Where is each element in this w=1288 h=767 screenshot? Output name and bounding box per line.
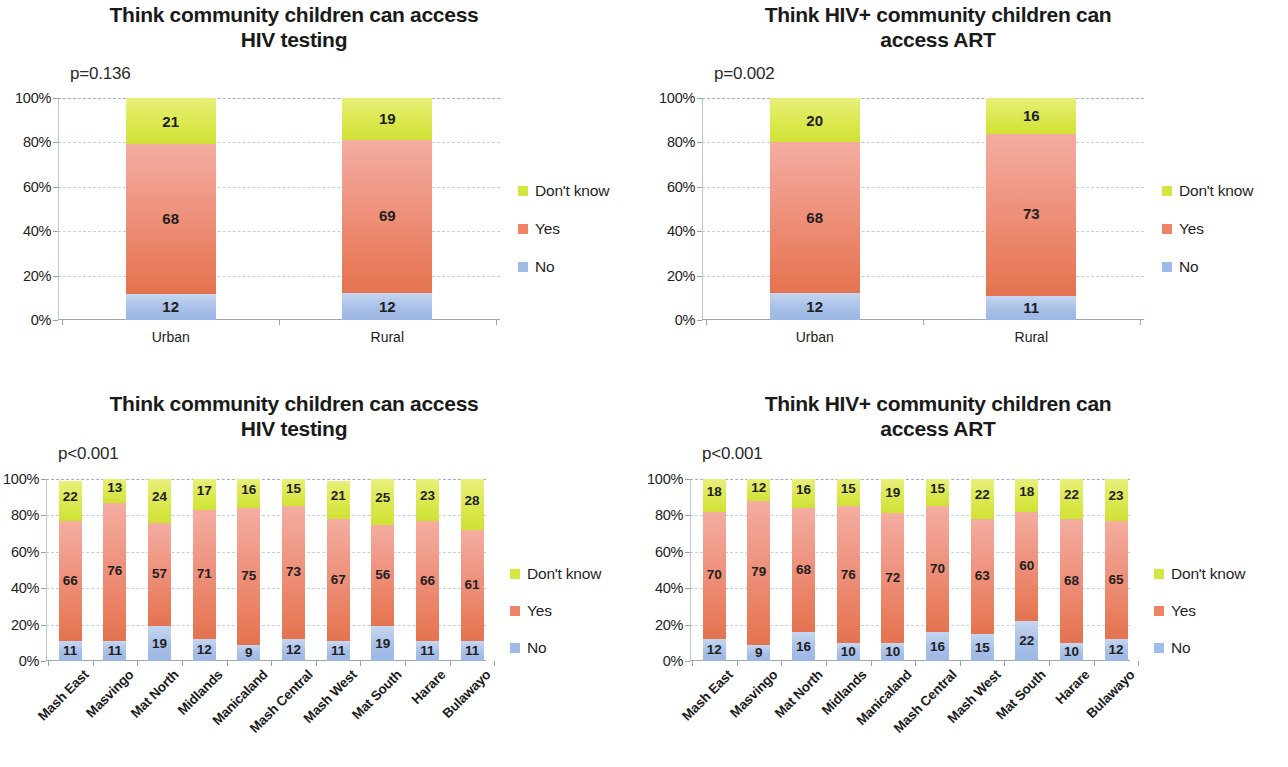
legend-item-dont-know[interactable]: Don't know xyxy=(1154,565,1245,583)
legend-label: No xyxy=(527,639,546,657)
bar-segment: 12 xyxy=(703,639,726,661)
bar-data-label: 68 xyxy=(1060,573,1083,588)
bar-data-label: 66 xyxy=(59,573,82,588)
x-axis-tick-mark xyxy=(1049,661,1050,666)
stacked-bar: 97912 xyxy=(747,479,770,661)
legend-item-yes[interactable]: Yes xyxy=(1162,220,1204,238)
bar-segment: 16 xyxy=(237,479,260,508)
legend-item-dont-know[interactable]: Don't know xyxy=(1162,182,1253,200)
legend-item-yes[interactable]: Yes xyxy=(510,602,552,620)
gridline xyxy=(702,276,1144,277)
bar-segment: 67 xyxy=(327,519,350,641)
legend-label: Don't know xyxy=(1179,182,1253,200)
gridline xyxy=(702,187,1144,188)
bar-data-label: 12 xyxy=(342,298,432,315)
gridline xyxy=(58,276,500,277)
bar-data-label: 9 xyxy=(237,645,260,660)
bar-segment: 65 xyxy=(1105,521,1128,639)
stacked-bar: 126919 xyxy=(342,98,432,320)
x-axis-tick-mark xyxy=(1138,661,1139,666)
bar-data-label: 76 xyxy=(837,567,860,582)
y-axis-tick-label: 80% xyxy=(655,507,683,523)
legend-item-no[interactable]: No xyxy=(510,639,546,657)
bar-data-label: 15 xyxy=(926,481,949,496)
chart-panel-art-provinces: Think HIV+ community children canaccess … xyxy=(644,383,1288,767)
x-axis-tick-mark xyxy=(494,661,495,666)
bar-segment: 22 xyxy=(1015,621,1038,661)
x-axis-tick-mark xyxy=(316,661,317,666)
plot-area: 0%20%40%60%80%100%127018Mash East97912Ma… xyxy=(690,479,1130,661)
legend-item-yes[interactable]: Yes xyxy=(518,220,560,238)
legend-item-no[interactable]: No xyxy=(518,258,554,276)
y-axis-tick-label: 60% xyxy=(655,544,683,560)
bar-segment: 18 xyxy=(703,479,726,512)
bar-data-label: 65 xyxy=(1105,572,1128,587)
bar-data-label: 73 xyxy=(282,564,305,579)
legend-swatch-yes-icon xyxy=(510,606,520,616)
legend-item-no[interactable]: No xyxy=(1154,639,1190,657)
bar-segment: 12 xyxy=(770,293,860,320)
bar-data-label: 18 xyxy=(703,484,726,499)
bar-data-label: 79 xyxy=(747,564,770,579)
chart-title-line2: access ART xyxy=(688,416,1188,441)
plot-background xyxy=(702,98,1144,320)
bar-data-label: 76 xyxy=(103,563,126,578)
y-axis-tick-mark xyxy=(53,231,58,232)
bar-data-label: 11 xyxy=(327,643,350,658)
y-axis-tick-label: 20% xyxy=(11,617,39,633)
chart-panel-testing-provinces: Think community children can accessHIV t… xyxy=(0,383,644,767)
y-axis-tick-mark xyxy=(685,625,690,626)
bar-data-label: 22 xyxy=(1060,487,1083,502)
x-axis-tick-label: Bulawayo xyxy=(440,667,494,721)
x-axis-tick-mark xyxy=(271,661,272,666)
x-axis-tick-label: Mat North xyxy=(771,667,825,721)
x-axis-tick-mark xyxy=(48,661,49,666)
bar-data-label: 66 xyxy=(416,573,439,588)
bar-data-label: 19 xyxy=(148,636,171,651)
bar-segment: 68 xyxy=(126,144,216,293)
chart-title: Think HIV+ community children canaccess … xyxy=(688,391,1188,441)
stacked-bar: 127117 xyxy=(193,479,216,661)
bar-segment: 23 xyxy=(416,479,439,521)
bar-segment: 70 xyxy=(926,506,949,632)
bar-data-label: 12 xyxy=(770,298,860,315)
stacked-bar: 117316 xyxy=(986,98,1076,320)
legend-item-no[interactable]: No xyxy=(1162,258,1198,276)
bar-segment: 15 xyxy=(926,479,949,506)
y-axis-tick-mark xyxy=(685,515,690,516)
x-axis-tick-mark xyxy=(706,320,707,325)
legend-item-dont-know[interactable]: Don't know xyxy=(518,182,609,200)
legend-label: Don't know xyxy=(1171,565,1245,583)
bar-data-label: 17 xyxy=(193,483,216,498)
legend-label: No xyxy=(1171,639,1190,657)
bar-data-label: 68 xyxy=(792,562,815,577)
legend-item-yes[interactable]: Yes xyxy=(1154,602,1196,620)
bar-segment: 16 xyxy=(792,632,815,661)
bar-segment: 12 xyxy=(126,294,216,320)
bar-data-label: 61 xyxy=(461,577,484,592)
y-axis-tick-mark xyxy=(697,142,702,143)
bar-segment: 60 xyxy=(1015,512,1038,621)
y-axis-tick-label: 80% xyxy=(667,134,695,150)
x-axis-tick-label: Harare xyxy=(409,667,449,707)
gridline xyxy=(58,142,500,143)
bar-segment: 10 xyxy=(1060,643,1083,661)
y-axis-tick-mark xyxy=(685,588,690,589)
bar-data-label: 68 xyxy=(770,209,860,226)
y-axis-tick-label: 100% xyxy=(659,90,695,106)
x-axis-tick-mark xyxy=(1094,661,1095,666)
legend-item-dont-know[interactable]: Don't know xyxy=(510,565,601,583)
x-axis-tick-label: Masvingo xyxy=(727,667,781,721)
chart-title: Think HIV+ community children canaccess … xyxy=(688,2,1188,52)
bar-segment: 9 xyxy=(237,645,260,661)
bar-segment: 56 xyxy=(371,525,394,627)
x-axis-tick-mark xyxy=(137,661,138,666)
bar-segment: 73 xyxy=(986,134,1076,296)
bar-segment: 9 xyxy=(747,645,770,661)
bar-data-label: 12 xyxy=(1105,642,1128,657)
y-axis-tick-mark xyxy=(41,661,46,662)
y-axis-tick-label: 0% xyxy=(31,312,51,328)
y-axis-tick-label: 40% xyxy=(667,223,695,239)
p-value-annotation: p=0.136 xyxy=(70,64,131,84)
bar-data-label: 15 xyxy=(282,481,305,496)
